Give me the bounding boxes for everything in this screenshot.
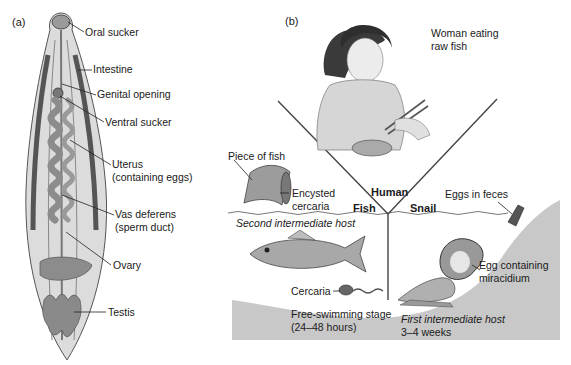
label-snail: Snail xyxy=(410,202,436,215)
label-woman-eating: Woman eating xyxy=(431,27,499,40)
label-miracidium: miracidium xyxy=(479,272,530,285)
label-fish: Fish xyxy=(353,202,376,215)
snail-figure xyxy=(398,278,455,307)
label-piece-of-fish: Piece of fish xyxy=(228,150,285,163)
label-eggs-in-feces: Eggs in feces xyxy=(445,188,508,201)
label-encysted: Encysted xyxy=(292,187,335,200)
life-cycle-illustration xyxy=(0,0,571,365)
label-free-swimming-duration: (24–48 hours) xyxy=(291,321,356,334)
panel-b-tag: (b) xyxy=(285,15,298,27)
label-first-host-duration: 3–4 weeks xyxy=(401,326,451,339)
label-cercaria: Cercaria xyxy=(291,285,331,298)
label-egg-containing: Egg containing xyxy=(479,259,548,272)
label-raw-fish: raw fish xyxy=(431,40,467,53)
label-human: Human xyxy=(371,186,408,199)
woman-figure xyxy=(317,25,430,156)
cercaria-figure xyxy=(339,285,383,295)
label-second-host: Second intermediate host xyxy=(236,217,355,230)
fish-figure xyxy=(250,230,366,272)
label-cercaria-cyst: cercaria xyxy=(292,200,329,213)
label-first-host: First intermediate host xyxy=(401,313,505,326)
label-free-swimming: Free-swimming stage xyxy=(291,308,391,321)
